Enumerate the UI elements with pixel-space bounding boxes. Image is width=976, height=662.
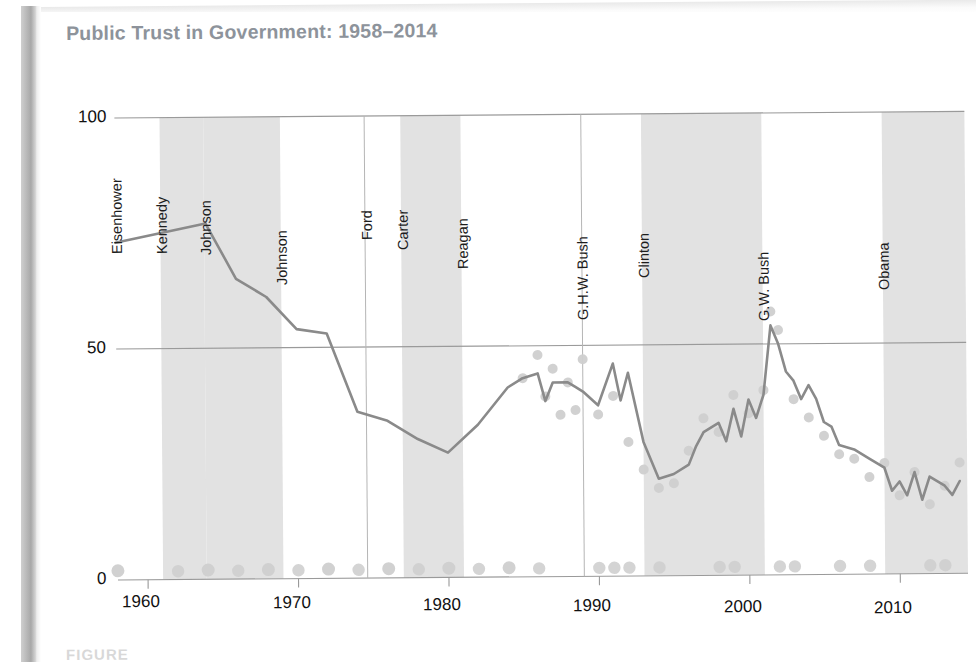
baseline-marker-dot (232, 564, 244, 576)
scatter-point (111, 564, 124, 577)
scatter-point (819, 431, 829, 441)
y-axis-tick-label-0: 0 (96, 569, 106, 589)
baseline-marker-dot (864, 560, 876, 572)
x-axis-tick-label-2010: 2010 (874, 598, 912, 618)
scatter-point (608, 391, 618, 401)
gridline-100 (114, 111, 964, 118)
x-axis-tick-label-1990: 1990 (573, 596, 611, 616)
president-label-reagan-6: Reagan (455, 218, 471, 269)
baseline-marker-dot (533, 562, 545, 574)
baseline-marker-dot (608, 562, 620, 574)
scatter-point (202, 564, 215, 577)
scatter-point (654, 483, 664, 493)
baseline-marker-dot (924, 559, 936, 571)
x-axis-tick-label-2000: 2000 (724, 597, 762, 617)
scatter-point (895, 490, 905, 500)
figure-caption: FIGURE (66, 646, 129, 662)
president-label-johnson-3: Johnson (274, 231, 290, 286)
baseline-marker-dot (789, 560, 801, 572)
y-axis-tick-label-100: 100 (78, 107, 107, 127)
scatter-point (262, 563, 275, 576)
president-label-johnson-2: Johnson (197, 200, 213, 255)
scatter-point (955, 457, 965, 467)
scatter-point (532, 350, 542, 360)
scanned-page: Public Trust in Government: 1958–2014 05… (0, 0, 976, 662)
scatter-point (578, 354, 588, 364)
president-label-obama-10: Obama (876, 243, 892, 291)
baseline-marker-dot (593, 562, 605, 574)
chart-svg (0, 0, 976, 662)
y-axis-tick-label-50: 50 (87, 338, 106, 358)
baseline-marker-dot (413, 563, 425, 575)
scatter-point (555, 410, 565, 420)
scatter-point (639, 465, 649, 475)
baseline-marker-dot (728, 561, 740, 573)
baseline-marker-dot (834, 560, 846, 572)
scatter-point (849, 454, 859, 464)
scatter-point (623, 437, 633, 447)
scatter-point (442, 562, 455, 575)
x-axis-tick-label-1960: 1960 (122, 592, 160, 612)
x-axis-tick-label-1970: 1970 (273, 593, 311, 613)
president-label-g-w--bush-9: G.W. Bush (755, 252, 772, 321)
scatter-point (864, 472, 874, 482)
chart-plot-area (0, 0, 976, 662)
president-label-kennedy-1: Kennedy (154, 197, 170, 254)
scatter-point (728, 390, 738, 400)
scatter-point (698, 413, 708, 423)
scatter-point (789, 394, 799, 404)
baseline-marker-dot (623, 561, 635, 573)
baseline-marker-dot (939, 559, 951, 571)
scatter-point (669, 478, 679, 488)
scatter-point (548, 364, 558, 374)
baseline-marker-dot (653, 561, 665, 573)
president-label-carter-5: Carter (395, 210, 411, 250)
scatter-point (925, 499, 935, 509)
president-label-ford-4: Ford (359, 210, 375, 240)
scatter-point (503, 561, 516, 574)
scatter-point (322, 563, 335, 576)
president-label-g-h-w--bush-7: G.H.W. Bush (575, 236, 592, 320)
baseline-marker-dot (172, 565, 184, 577)
scatter-point (593, 409, 603, 419)
x-axis-tick-label-1980: 1980 (423, 594, 461, 614)
scatter-point (570, 405, 580, 415)
baseline-marker-dot (473, 563, 485, 575)
president-label-eisenhower-0: Eisenhower (108, 178, 125, 254)
scatter-point (382, 562, 395, 575)
baseline-marker-dot (292, 564, 304, 576)
baseline-marker-dot (352, 564, 364, 576)
scatter-point (804, 412, 814, 422)
baseline-marker-dot (774, 560, 786, 572)
president-label-clinton-8: Clinton (635, 233, 651, 278)
scatter-point (834, 449, 844, 459)
baseline-marker-dot (713, 561, 725, 573)
